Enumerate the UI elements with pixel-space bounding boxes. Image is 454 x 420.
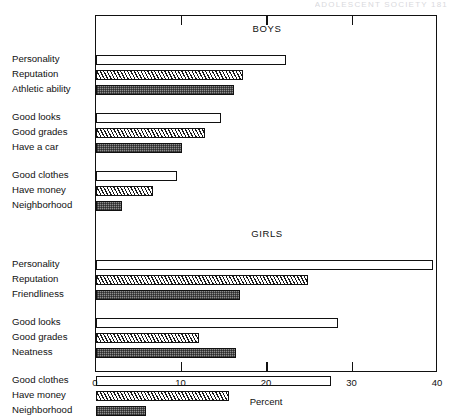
- bar-boys-good-grades: [96, 128, 205, 138]
- bar-boys-good-looks: [96, 113, 221, 123]
- category-label-boys-athletic-ability: Athletic ability: [12, 83, 71, 94]
- category-label-girls-neatness: Neatness: [12, 346, 53, 357]
- bar-boys-personality: [96, 55, 286, 65]
- category-label-boys-have-a-car: Have a car: [12, 141, 58, 152]
- category-label-boys-good-grades: Good grades: [12, 126, 67, 137]
- x-tick-bottom-30: [352, 362, 353, 371]
- x-tick-label-20: 20: [261, 378, 272, 388]
- x-axis-title: Percent: [250, 396, 283, 407]
- x-tick-top-30: [352, 16, 353, 25]
- bar-boys-have-money: [96, 186, 153, 196]
- category-label-girls-good-clothes: Good clothes: [12, 374, 69, 385]
- bar-boys-athletic-ability: [96, 85, 234, 95]
- x-tick-top-10: [181, 16, 182, 25]
- category-label-girls-good-looks: Good looks: [12, 316, 61, 327]
- category-label-boys-have-money: Have money: [12, 184, 66, 195]
- bar-girls-good-clothes: [96, 376, 331, 386]
- category-label-boys-reputation: Reputation: [12, 68, 58, 79]
- category-label-girls-have-money: Have money: [12, 389, 66, 400]
- panel-title-girls: GIRLS: [251, 228, 283, 239]
- category-label-girls-neighborhood: Neighborhood: [12, 404, 72, 415]
- bar-girls-have-money: [96, 391, 229, 401]
- bar-boys-neighborhood: [96, 201, 122, 211]
- x-tick-bottom-10: [181, 362, 182, 371]
- x-tick-label-10: 10: [175, 378, 186, 388]
- chart-figure: ADOLESCENT SOCIETY 181 BOYSGIRLS Persona…: [0, 0, 454, 420]
- bar-girls-neighborhood: [96, 406, 146, 416]
- bar-girls-good-grades: [96, 333, 199, 343]
- page-running-head: ADOLESCENT SOCIETY 181: [315, 0, 448, 9]
- category-label-girls-good-grades: Good grades: [12, 331, 67, 342]
- bar-girls-friendliness: [96, 290, 240, 300]
- category-label-girls-friendliness: Friendliness: [12, 288, 64, 299]
- bar-girls-neatness: [96, 348, 236, 358]
- bar-boys-have-a-car: [96, 143, 182, 153]
- bar-girls-good-looks: [96, 318, 338, 328]
- category-label-boys-good-looks: Good looks: [12, 111, 61, 122]
- x-tick-bottom-20: [266, 362, 267, 371]
- plot-area: BOYSGIRLS: [95, 15, 437, 372]
- bar-boys-reputation: [96, 70, 243, 80]
- bar-girls-reputation: [96, 275, 308, 285]
- bar-girls-personality: [96, 260, 433, 270]
- x-tick-label-40: 40: [432, 378, 443, 388]
- category-label-girls-reputation: Reputation: [12, 273, 58, 284]
- category-label-boys-neighborhood: Neighborhood: [12, 199, 72, 210]
- bar-boys-good-clothes: [96, 171, 177, 181]
- category-label-girls-personality: Personality: [12, 258, 59, 269]
- x-tick-label-30: 30: [346, 378, 357, 388]
- category-label-boys-good-clothes: Good clothes: [12, 169, 69, 180]
- panel-title-boys: BOYS: [253, 23, 282, 34]
- x-tick-label-0: 0: [92, 378, 97, 388]
- category-label-boys-personality: Personality: [12, 53, 59, 64]
